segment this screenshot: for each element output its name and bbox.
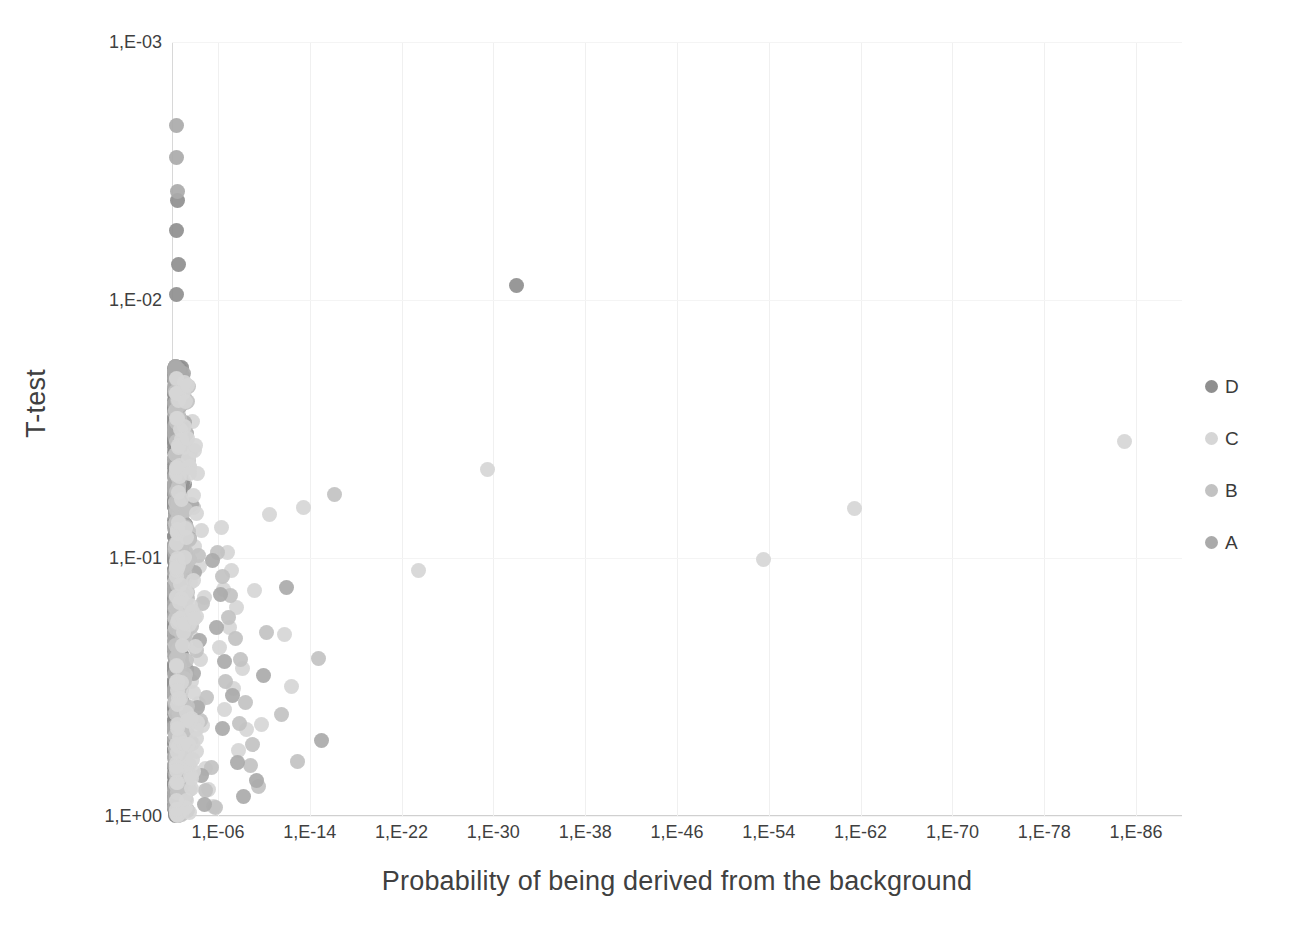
y-axis-tick-labels: 1,E-031,E-021,E-011,E+00 bbox=[32, 0, 162, 930]
data-point-A bbox=[169, 150, 184, 165]
gridline-vertical bbox=[402, 42, 403, 816]
y-axis-tick-label: 1,E-01 bbox=[42, 548, 162, 569]
gridline-vertical bbox=[218, 42, 219, 816]
x-axis-title: Probability of being derived from the ba… bbox=[172, 866, 1182, 897]
legend-item-D[interactable]: D bbox=[1205, 360, 1285, 412]
legend-item-B[interactable]: B bbox=[1205, 464, 1285, 516]
data-point-cluster bbox=[185, 752, 200, 767]
data-point-A bbox=[197, 797, 212, 812]
data-point-B bbox=[218, 674, 233, 689]
data-point-A bbox=[314, 733, 329, 748]
data-point-cluster bbox=[182, 466, 197, 481]
legend-label: A bbox=[1225, 533, 1238, 552]
data-point-A bbox=[236, 789, 251, 804]
gridline-vertical bbox=[1044, 42, 1045, 816]
data-point-cluster bbox=[169, 658, 184, 673]
data-point-B bbox=[228, 631, 243, 646]
data-point-cluster bbox=[189, 506, 204, 521]
gridline-vertical bbox=[1136, 42, 1137, 816]
data-point-B bbox=[245, 737, 260, 752]
data-point-C bbox=[411, 563, 426, 578]
legend-marker-icon bbox=[1205, 432, 1218, 445]
data-point-C bbox=[247, 583, 262, 598]
legend-label: B bbox=[1225, 481, 1238, 500]
y-axis-tick-label: 1,E+00 bbox=[42, 806, 162, 827]
gridline-vertical bbox=[952, 42, 953, 816]
scatter-chart: T-test 1,E-031,E-021,E-011,E+00 1,E-061,… bbox=[0, 0, 1289, 930]
data-point-A bbox=[279, 580, 294, 595]
legend-marker-icon bbox=[1205, 536, 1218, 549]
data-point-cluster bbox=[170, 411, 185, 426]
data-point-C bbox=[756, 552, 771, 567]
data-point-D bbox=[169, 287, 184, 302]
gridline-vertical bbox=[493, 42, 494, 816]
data-point-B bbox=[274, 707, 289, 722]
data-point-A bbox=[205, 553, 220, 568]
data-point-cluster bbox=[177, 550, 192, 565]
legend-label: D bbox=[1225, 377, 1239, 396]
data-point-A bbox=[256, 668, 271, 683]
data-point-B bbox=[327, 487, 342, 502]
data-point-C bbox=[217, 702, 232, 717]
data-point-A bbox=[230, 755, 245, 770]
data-point-cluster bbox=[182, 805, 197, 820]
data-point-cluster bbox=[170, 721, 185, 736]
data-point-cluster bbox=[170, 775, 185, 790]
gridline-horizontal bbox=[172, 558, 1182, 559]
gridline-vertical bbox=[310, 42, 311, 816]
data-point-A bbox=[209, 620, 224, 635]
x-axis-tick-label: 1,E-86 bbox=[1076, 822, 1196, 843]
data-point-C bbox=[262, 507, 277, 522]
legend-label: C bbox=[1225, 429, 1239, 448]
data-point-B bbox=[238, 695, 253, 710]
data-point-cluster bbox=[186, 685, 201, 700]
data-point-A bbox=[217, 654, 232, 669]
plot-area bbox=[172, 42, 1182, 816]
legend-item-A[interactable]: A bbox=[1205, 516, 1285, 568]
data-point-D bbox=[169, 223, 184, 238]
data-point-B bbox=[232, 716, 247, 731]
data-point-cluster bbox=[180, 378, 195, 393]
legend-marker-icon bbox=[1205, 380, 1218, 393]
data-point-A bbox=[213, 587, 228, 602]
legend-marker-icon bbox=[1205, 484, 1218, 497]
data-point-A bbox=[169, 118, 184, 133]
data-point-cluster bbox=[184, 771, 199, 786]
data-point-D bbox=[509, 278, 524, 293]
gridline-horizontal bbox=[172, 816, 1182, 817]
data-point-A bbox=[215, 721, 230, 736]
data-point-B bbox=[259, 625, 274, 640]
gridline-horizontal bbox=[172, 300, 1182, 301]
data-point-C bbox=[1117, 434, 1132, 449]
y-axis-tick-label: 1,E-02 bbox=[42, 290, 162, 311]
data-point-cluster bbox=[169, 763, 184, 778]
data-point-cluster bbox=[175, 638, 190, 653]
gridline-vertical bbox=[861, 42, 862, 816]
data-point-cluster bbox=[170, 683, 185, 698]
data-point-C bbox=[254, 717, 269, 732]
data-point-B bbox=[215, 569, 230, 584]
data-point-cluster bbox=[187, 611, 202, 626]
gridline-vertical bbox=[585, 42, 586, 816]
data-point-C bbox=[277, 627, 292, 642]
y-axis-tick-label: 1,E-03 bbox=[42, 32, 162, 53]
chart-legend: DCBA bbox=[1205, 360, 1285, 568]
data-point-B bbox=[198, 783, 213, 798]
data-point-B bbox=[290, 754, 305, 769]
gridline-vertical bbox=[769, 42, 770, 816]
data-point-cluster bbox=[188, 639, 203, 654]
data-point-B bbox=[221, 610, 236, 625]
data-point-A bbox=[225, 688, 240, 703]
gridline-vertical bbox=[677, 42, 678, 816]
data-point-B bbox=[311, 651, 326, 666]
data-point-D bbox=[171, 257, 186, 272]
gridline-horizontal bbox=[172, 42, 1182, 43]
data-point-C bbox=[284, 679, 299, 694]
data-point-C bbox=[214, 520, 229, 535]
legend-item-C[interactable]: C bbox=[1205, 412, 1285, 464]
